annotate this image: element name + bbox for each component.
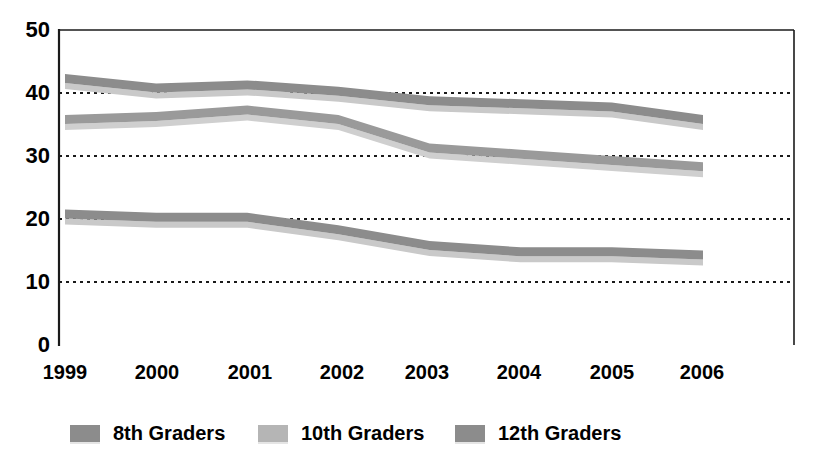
legend-item-10th-graders[interactable]: 10th Graders <box>258 420 424 446</box>
series-band-8th-graders <box>65 210 703 260</box>
x-tick-label-2006: 2006 <box>657 362 747 382</box>
legend-swatch-10th-graders <box>258 425 288 442</box>
plot-area <box>0 0 819 400</box>
x-tick-label-2002: 2002 <box>297 362 387 382</box>
x-axis-tick-labels: 1999 2000 2001 2002 2003 2004 2005 2006 <box>0 362 819 396</box>
x-tick-label-2005: 2005 <box>567 362 657 382</box>
legend-label-12th-graders: 12th Graders <box>498 423 621 443</box>
x-tick-label-2004: 2004 <box>474 362 564 382</box>
legend-item-8th-graders[interactable]: 8th Graders <box>70 420 225 446</box>
x-tick-label-2003: 2003 <box>382 362 472 382</box>
legend-label-8th-graders: 8th Graders <box>113 423 225 443</box>
legend-swatch-8th-graders <box>70 425 100 442</box>
x-tick-label-2001: 2001 <box>205 362 295 382</box>
legend-swatch-12th-graders <box>455 425 485 442</box>
chart-container: 50 40 30 20 10 0 1999 2000 2001 2002 200… <box>0 0 819 473</box>
chart-legend: 8th Graders 10th Graders 12th Graders <box>0 420 819 460</box>
series-bands <box>65 74 703 265</box>
x-tick-label-1999: 1999 <box>20 362 110 382</box>
x-tick-label-2000: 2000 <box>112 362 202 382</box>
series-band-10th-graders-shadow <box>65 115 703 178</box>
legend-label-10th-graders: 10th Graders <box>301 423 424 443</box>
legend-item-12th-graders[interactable]: 12th Graders <box>455 420 621 446</box>
